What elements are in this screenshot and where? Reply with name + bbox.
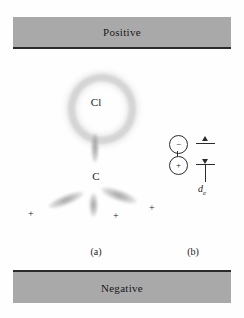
negative-charge-circle-icon: − [169,135,188,154]
dimension-tick-top [196,143,215,144]
figure-canvas: Positive Cl C + + + − + de (a) (b) Negat [0,0,244,318]
dipole-distance-subscript: e [203,189,206,197]
dimension-arrow-up-icon [202,136,208,141]
positive-charge-symbol: + [176,161,181,170]
negative-plate-label: Negative [101,282,143,294]
negative-electrode-plate: Negative [13,270,231,303]
positive-charge-circle-icon: + [169,156,188,175]
caption-panel-a: (a) [83,246,109,257]
dimension-leader-line [205,164,206,182]
negative-charge-symbol: − [176,140,181,149]
caption-panel-b: (b) [180,246,206,257]
dipole-distance-label: de [198,183,206,197]
